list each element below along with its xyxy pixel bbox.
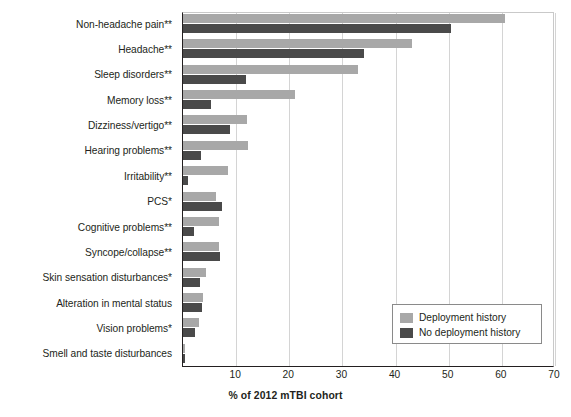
legend-swatch-no-deployment-history: [400, 328, 413, 338]
y-axis-label: Syncope/collapse**: [85, 247, 172, 258]
y-axis-label: Non-headache pain**: [76, 19, 172, 30]
bar-deployment-history: [183, 39, 412, 48]
bar-deployment-history: [183, 90, 295, 99]
y-axis-labels: Non-headache pain**Headache**Sleep disor…: [0, 12, 178, 367]
bar-deployment-history: [183, 318, 199, 327]
x-axis-tick-label: 70: [548, 369, 559, 380]
legend-swatch-deployment-history: [400, 313, 413, 323]
bar-deployment-history: [183, 141, 248, 150]
x-axis-ticks: 010203040506070: [0, 369, 571, 385]
bar-row: [183, 216, 553, 241]
y-axis-label: Skin sensation disturbances*: [43, 272, 172, 283]
bar-no-deployment-history: [183, 49, 364, 58]
bar-deployment-history: [183, 344, 185, 353]
bar-deployment-history: [183, 217, 219, 226]
gridline-70: [555, 13, 556, 366]
y-axis-label: Vision problems*: [97, 323, 172, 334]
bar-no-deployment-history: [183, 328, 195, 337]
legend-label-deployment-history: Deployment history: [419, 312, 506, 323]
y-axis-label: Cognitive problems**: [78, 222, 172, 233]
bar-deployment-history: [183, 192, 216, 201]
bar-no-deployment-history: [183, 24, 451, 33]
bar-row: [183, 140, 553, 165]
bar-row: [183, 89, 553, 114]
y-axis-label: Memory loss**: [107, 95, 172, 106]
y-axis-label: Hearing problems**: [85, 145, 172, 156]
bar-deployment-history: [183, 293, 203, 302]
bar-no-deployment-history: [183, 75, 246, 84]
bar-row: [183, 38, 553, 63]
y-axis-label: Dizziness/vertigo**: [88, 120, 172, 131]
x-axis-tick-label: 60: [495, 369, 506, 380]
y-axis-label: Smell and taste disturbances: [43, 348, 172, 359]
bar-deployment-history: [183, 115, 247, 124]
bar-no-deployment-history: [183, 354, 185, 363]
y-axis-label: PCS*: [147, 196, 172, 207]
bar-deployment-history: [183, 242, 219, 251]
x-axis-title: % of 2012 mTBI cohort: [0, 390, 571, 401]
bar-deployment-history: [183, 14, 505, 23]
bar-deployment-history: [183, 166, 228, 175]
legend: Deployment history No deployment history: [392, 304, 542, 344]
bar-row: [183, 165, 553, 190]
legend-label-no-deployment-history: No deployment history: [419, 327, 520, 338]
bar-no-deployment-history: [183, 151, 201, 160]
bar-row: [183, 191, 553, 216]
y-axis-label: Headache**: [118, 44, 172, 55]
x-axis-tick-label: 0: [179, 369, 185, 380]
x-axis-tick-label: 50: [442, 369, 453, 380]
bar-deployment-history: [183, 65, 358, 74]
legend-item-no-deployment-history: No deployment history: [400, 325, 535, 340]
y-axis-label: Irritability**: [124, 171, 172, 182]
bar-no-deployment-history: [183, 278, 200, 287]
y-axis-label: Alteration in mental status: [56, 298, 172, 309]
bar-row: [183, 241, 553, 266]
bar-deployment-history: [183, 268, 206, 277]
legend-item-deployment-history: Deployment history: [400, 310, 535, 325]
bar-chart: Non-headache pain**Headache**Sleep disor…: [0, 0, 571, 417]
bar-no-deployment-history: [183, 303, 202, 312]
bar-row: [183, 267, 553, 292]
x-axis-tick-label: 20: [283, 369, 294, 380]
bar-no-deployment-history: [183, 100, 211, 109]
bar-no-deployment-history: [183, 125, 230, 134]
bar-row: [183, 13, 553, 38]
bar-no-deployment-history: [183, 252, 220, 261]
x-axis-title-text: % of 2012 mTBI cohort: [228, 390, 342, 401]
bar-row: [183, 64, 553, 89]
y-axis-label: Sleep disorders**: [94, 69, 172, 80]
x-axis-tick-label: 40: [389, 369, 400, 380]
bar-no-deployment-history: [183, 202, 222, 211]
bar-row: [183, 343, 553, 368]
bar-no-deployment-history: [183, 227, 194, 236]
bar-row: [183, 114, 553, 139]
x-axis-tick-label: 10: [229, 369, 240, 380]
x-axis-tick-label: 30: [336, 369, 347, 380]
bar-no-deployment-history: [183, 176, 188, 185]
